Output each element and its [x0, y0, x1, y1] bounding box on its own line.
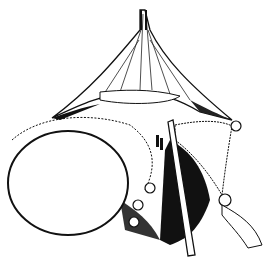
surgical-illustration — [0, 0, 271, 259]
tissue-strip-lower-right — [222, 205, 262, 248]
retracted-tissue-tent — [52, 10, 232, 120]
illustration-canvas — [0, 0, 271, 259]
